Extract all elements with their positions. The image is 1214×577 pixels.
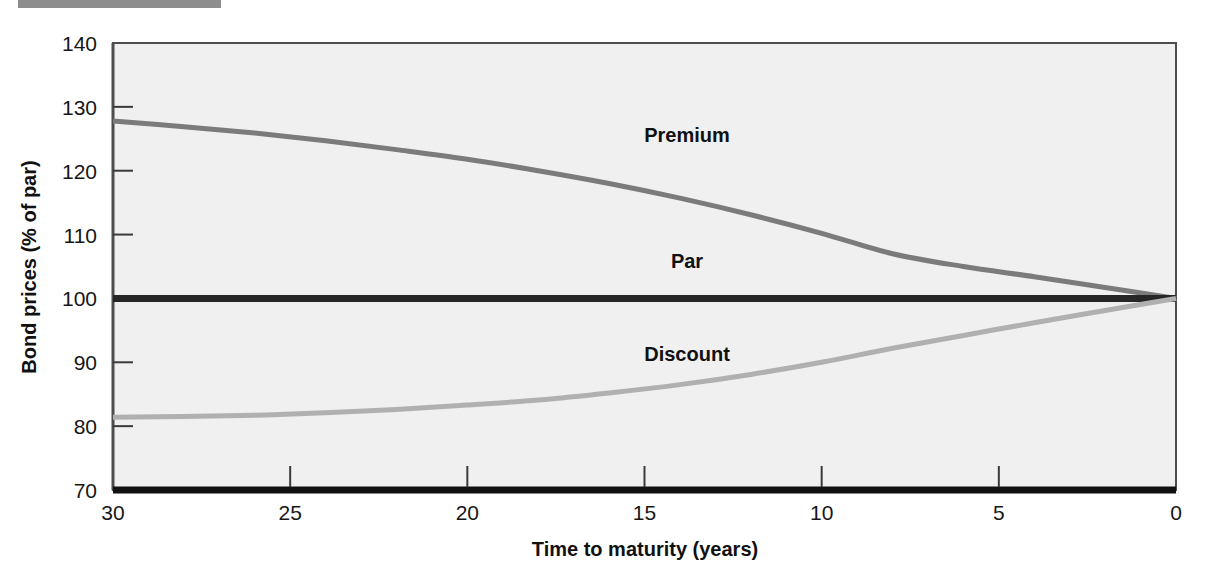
x-tick-label-10: 10 — [810, 501, 833, 524]
y-tick-label-70: 70 — [74, 479, 97, 502]
y-tick-label-120: 120 — [62, 160, 97, 183]
series-label-premium: Premium — [644, 124, 730, 146]
bond-price-chart: 140130120110100908070 302520151050 Premi… — [0, 0, 1214, 577]
y-tick-label-130: 130 — [62, 96, 97, 119]
plot-area-background — [113, 43, 1176, 490]
x-tick-label-25: 25 — [278, 501, 301, 524]
x-tick-label-15: 15 — [633, 501, 656, 524]
x-axis-title: Time to maturity (years) — [532, 538, 758, 560]
x-tick-label-0: 0 — [1170, 501, 1182, 524]
x-tick-label-30: 30 — [101, 501, 124, 524]
x-tick-label-5: 5 — [993, 501, 1005, 524]
y-tick-label-80: 80 — [74, 415, 97, 438]
y-axis-title: Bond prices (% of par) — [18, 160, 40, 373]
y-tick-label-90: 90 — [74, 351, 97, 374]
x-axis-tick-labels: 302520151050 — [101, 501, 1182, 524]
series-label-discount: Discount — [644, 343, 730, 365]
y-tick-label-110: 110 — [64, 224, 97, 247]
y-tick-label-100: 100 — [62, 287, 97, 310]
bond-price-figure: 140130120110100908070 302520151050 Premi… — [0, 0, 1214, 577]
y-axis-tick-labels: 140130120110100908070 — [62, 32, 97, 502]
series-label-par: Par — [671, 250, 703, 272]
x-tick-label-20: 20 — [456, 501, 479, 524]
y-tick-label-140: 140 — [62, 32, 97, 55]
